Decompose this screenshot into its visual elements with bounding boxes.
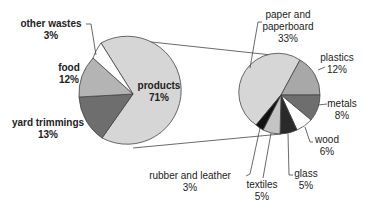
label-text: glass (291, 168, 321, 180)
label-text: plastics (317, 52, 357, 64)
label-pct: 8% (324, 110, 360, 122)
label-text: paper and (258, 9, 318, 21)
label-pct: 71% (134, 92, 184, 104)
label-pct: 3% (140, 182, 240, 194)
label-text: textiles (242, 179, 282, 191)
label-pct: 3% (16, 30, 86, 42)
leader-other-wastes (86, 24, 96, 55)
label-metals: metals 8% (324, 98, 360, 122)
label-pct: 33% (258, 33, 318, 45)
label-pct: 6% (312, 146, 342, 158)
label-food: food 12% (54, 62, 84, 86)
label-rubber-leather: rubber and leather 3% (140, 170, 240, 194)
label-textiles: textiles 5% (242, 179, 282, 203)
label-pct: 5% (242, 191, 282, 203)
label-plastics: plastics 12% (317, 52, 357, 76)
label-text: yard trimmings (8, 117, 88, 129)
label-products: products 71% (134, 80, 184, 104)
label-text: wood (312, 134, 342, 146)
right-pie (239, 53, 320, 134)
label-text: metals (324, 98, 360, 110)
label-text: rubber and leather (140, 170, 240, 182)
label-text: food (54, 62, 84, 74)
label-yard-trimmings: yard trimmings 13% (8, 117, 88, 141)
label-text: other wastes (16, 18, 86, 30)
label-text: products (134, 80, 184, 92)
label-other-wastes: other wastes 3% (16, 18, 86, 42)
label-paper: paper and paperboard 33% (258, 9, 318, 45)
label-pct: 12% (317, 64, 357, 76)
label-pct: 12% (54, 74, 84, 86)
label-pct: 13% (8, 129, 88, 141)
label-wood: wood 6% (312, 134, 342, 158)
label-text: paperboard (258, 21, 318, 33)
label-pct: 5% (291, 180, 321, 192)
label-glass: glass 5% (291, 168, 321, 192)
leader-textiles (263, 133, 271, 178)
leader-rubber (246, 128, 260, 176)
